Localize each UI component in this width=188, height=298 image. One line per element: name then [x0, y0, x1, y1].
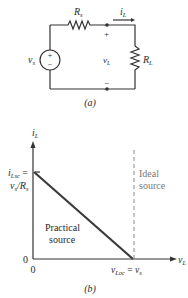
load-voltage-minus: −	[104, 78, 109, 88]
source-label: vs	[28, 54, 35, 66]
current-label: iL	[120, 6, 127, 18]
load-resistor-label: RL	[142, 54, 153, 66]
practical-source-line	[34, 172, 133, 259]
series-resistor-label: Rs	[73, 6, 83, 18]
ideal-source-label-line2: source	[139, 180, 166, 191]
practical-source-label-line2: source	[49, 234, 76, 245]
y-axis-label: iL	[32, 127, 39, 139]
load-voltage-plus: +	[104, 29, 109, 39]
ideal-source-label-line1: Ideal	[139, 168, 159, 179]
node-top-icon	[105, 23, 109, 27]
open-circuit-voltage-label: vLoc = vs	[111, 265, 142, 276]
source-minus: −	[48, 60, 53, 69]
current-arrowhead-icon	[131, 18, 135, 22]
load-voltage-label: vL	[103, 55, 111, 66]
x-axis-arrow-icon	[170, 257, 177, 262]
short-circuit-current-formula: vs/Rs	[10, 180, 29, 192]
source-plus: +	[48, 51, 53, 60]
short-circuit-current-label: iLsc =	[8, 167, 28, 179]
caption-a: (a)	[84, 97, 96, 109]
series-resistor-icon	[50, 21, 135, 46]
origin-x-label: 0	[31, 264, 36, 275]
figure: + − vs Rs iL RL + − vL (a) iL vL 0	[0, 0, 188, 298]
origin-y-label: 0	[23, 254, 28, 265]
caption-b: (b)	[84, 283, 96, 295]
circuit-diagram: + − vs Rs iL RL + − vL (a)	[28, 6, 153, 109]
y-axis-arrow-icon	[31, 141, 36, 148]
x-axis-label: vL	[178, 254, 186, 266]
iv-graph: iL vL 0 0 iLsc = vs/Rs vLoc = vs Practic…	[8, 127, 186, 295]
load-resistor-icon	[131, 46, 139, 89]
practical-source-label-line1: Practical	[45, 222, 80, 233]
